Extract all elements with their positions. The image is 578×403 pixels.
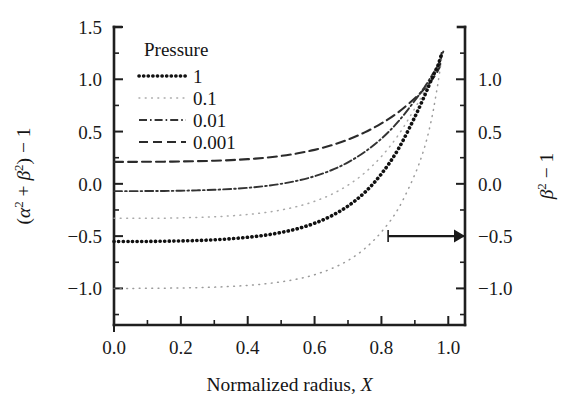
curve-0.1-faint: [114, 55, 442, 219]
y-axis-title-right: β2 − 1: [534, 153, 558, 201]
arrow-annotation: [388, 230, 465, 243]
curve-0.01: [114, 52, 443, 192]
y-axis-title-left: (α2 + β2) − 1: [11, 127, 36, 224]
y-ticklabel-0: 1.5: [78, 17, 102, 38]
svg-text:β2 − 1: β2 − 1: [534, 153, 558, 201]
yr-ticklabel-0: 1.0: [478, 69, 502, 90]
x-axis-title: Normalized radius, X: [206, 374, 373, 395]
svg-text:Normalized radius, X: Normalized radius, X: [206, 374, 373, 395]
tick-labels: 0.00.20.40.60.81.01.51.00.50.0−0.5−1.01.…: [68, 17, 513, 358]
legend-label-0.1: 0.1: [193, 88, 217, 109]
legend-label-0.001: 0.001: [193, 132, 236, 153]
x-ticklabel-5: 1.0: [436, 337, 460, 358]
legend-label-1: 1: [193, 66, 203, 87]
yr-ticklabel-1: 0.5: [478, 122, 502, 143]
x-ticklabel-3: 0.6: [303, 337, 327, 358]
figure-container: 0.00.20.40.60.81.01.51.00.50.0−0.5−1.01.…: [0, 0, 578, 403]
y-ticklabel-5: −1.0: [68, 278, 102, 299]
yr-ticklabel-3: −0.5: [478, 226, 512, 247]
curve-0.001: [114, 53, 442, 162]
yr-ticklabel-4: −1.0: [478, 278, 512, 299]
y-ticklabel-1: 1.0: [78, 69, 102, 90]
x-ticklabel-0: 0.0: [102, 337, 126, 358]
yr-ticklabel-2: 0.0: [478, 174, 502, 195]
y-ticklabel-3: 0.0: [78, 174, 102, 195]
x-ticklabel-4: 0.8: [370, 337, 394, 358]
x-ticklabel-1: 0.2: [169, 337, 193, 358]
axis-titles: Normalized radius, X(α2 + β2) − 1β2 − 1: [11, 127, 558, 395]
x-ticklabel-2: 0.4: [236, 337, 260, 358]
svg-text:(α2 + β2) − 1: (α2 + β2) − 1: [11, 127, 36, 224]
y-ticklabel-2: 0.5: [78, 122, 102, 143]
legend-title: Pressure: [144, 39, 208, 60]
curve-lowest: [114, 58, 442, 288]
y-ticklabel-4: −0.5: [68, 226, 102, 247]
curve-1: [114, 54, 442, 242]
chart-legend: Pressure10.10.010.001: [139, 39, 236, 153]
chart-canvas: 0.00.20.40.60.81.01.51.00.50.0−0.5−1.01.…: [0, 0, 578, 403]
legend-label-0.01: 0.01: [193, 110, 226, 131]
annotation-arrow-head: [454, 230, 465, 243]
axis-frame: [114, 27, 465, 332]
data-curves: [114, 52, 443, 289]
